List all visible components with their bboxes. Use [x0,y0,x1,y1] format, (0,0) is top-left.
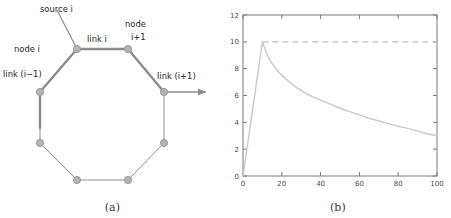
ring-edges-thick [40,49,164,128]
y-axis-tick-labels: 024681012 [230,12,239,181]
label-link-i: link i [87,34,107,44]
label-link-i-minus-1: link (i−1) [3,69,42,79]
x-tick-label: 20 [277,180,286,188]
x-axis-tick-labels: 020406080100 [241,180,444,188]
source-edge [57,10,77,49]
y-tick-label: 0 [235,173,239,181]
label-node-i-plus-1-line2: i+1 [131,32,146,42]
edge-link-i-minus-1 [40,49,77,92]
y-tick-label: 2 [235,146,239,154]
x-tick-label: 80 [394,180,403,188]
y-tick-label: 8 [235,65,239,73]
y-tick-label: 12 [230,12,239,20]
node-i-plus-3 [160,139,167,146]
plot-frame [243,15,437,176]
ring-diagram: source i node i link i node i+1 link (i−… [0,0,225,200]
figure-container: source i node i link i node i+1 link (i−… [0,0,451,218]
x-tick-label: 60 [355,180,364,188]
node-i-plus-1 [124,45,131,52]
node-i-plus-7 [36,88,43,95]
x-tick-label: 40 [316,180,325,188]
label-source-i: source i [40,4,73,14]
panel-b: 020406080100 024681012 (b) [225,0,451,218]
y-tick-label: 4 [235,119,240,127]
label-node-i-plus-1-line1: node [125,19,146,29]
node-i-plus-5 [73,176,80,183]
y-axis-ticks [243,15,437,176]
node-i-plus-2 [160,88,167,95]
x-tick-label: 100 [430,180,443,188]
y-tick-label: 10 [230,38,239,46]
node-i-plus-6 [36,139,43,146]
series-response-line [243,42,437,176]
caption-b: (b) [225,201,451,214]
node-i [73,45,80,52]
outgoing-arrow [164,88,206,95]
ring-edges-thin [40,92,164,180]
label-node-i: node i [14,44,40,54]
caption-a: (a) [0,201,225,214]
x-axis-ticks [243,15,437,176]
y-tick-label: 6 [235,92,240,100]
line-chart: 020406080100 024681012 [225,0,451,200]
x-tick-label: 0 [241,180,245,188]
label-link-i-plus-1: link (i+1) [157,71,196,81]
node-i-plus-4 [124,176,131,183]
panel-a: source i node i link i node i+1 link (i−… [0,0,225,218]
ring-nodes [36,45,167,183]
